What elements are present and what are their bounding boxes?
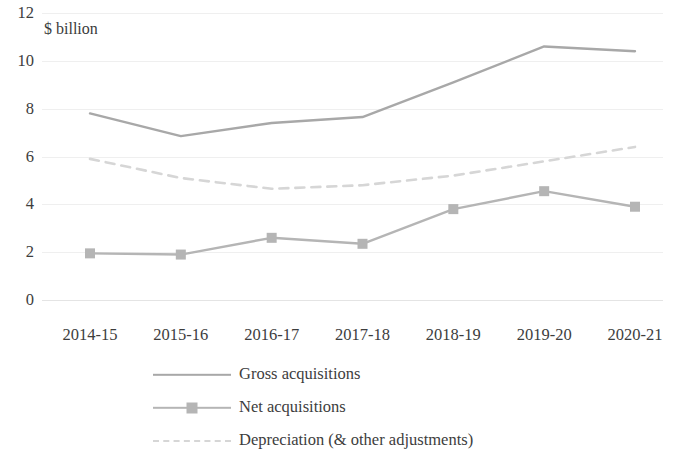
legend-item: Gross acquisitions (0, 358, 693, 391)
data-point-marker (358, 239, 368, 249)
data-point-marker (176, 250, 186, 260)
legend-label: Gross acquisitions (239, 366, 360, 383)
legend-label: Net acquisitions (239, 399, 346, 416)
legend-key-swatch (153, 401, 231, 415)
legend-item: Depreciation (& other adjustments) (0, 424, 693, 457)
legend-square-marker (187, 402, 198, 413)
series-line (90, 147, 635, 189)
data-point-marker (448, 204, 458, 214)
data-point-marker (630, 202, 640, 212)
legend-label: Depreciation (& other adjustments) (239, 432, 473, 449)
series-line (90, 46, 635, 136)
data-point-marker (539, 186, 549, 196)
legend-key-swatch (153, 434, 231, 448)
legend-item: Net acquisitions (0, 391, 693, 424)
chart-legend: Gross acquisitionsNet acquisitionsDeprec… (0, 358, 693, 457)
data-point-marker (85, 248, 95, 258)
legend-solid-line (153, 373, 231, 375)
data-point-marker (267, 233, 277, 243)
legend-key-swatch (153, 368, 231, 382)
line-chart: 024681012 $ billion 2014-152015-162016-1… (0, 0, 693, 463)
legend-dashed-line (153, 440, 231, 442)
